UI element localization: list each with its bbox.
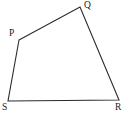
vertex-label-s: S bbox=[2, 102, 7, 112]
geometry-figure: P Q R S bbox=[0, 0, 128, 118]
vertex-label-r: R bbox=[115, 102, 121, 112]
quadrilateral-drawing bbox=[0, 0, 128, 118]
vertex-label-q: Q bbox=[84, 0, 91, 10]
vertex-label-p: P bbox=[9, 28, 14, 38]
